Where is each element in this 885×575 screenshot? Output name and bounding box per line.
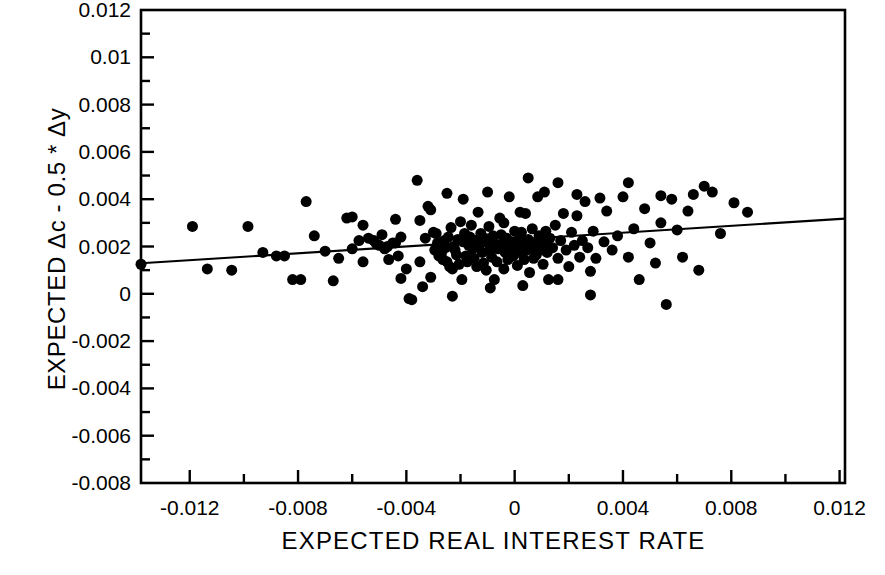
data-point — [524, 267, 535, 278]
data-point — [655, 217, 666, 228]
data-point — [393, 250, 404, 261]
data-point — [347, 243, 358, 254]
data-point — [582, 242, 593, 253]
data-point — [417, 281, 428, 292]
scatter-plot-figure: EXPECTED Δc - 0.5 * Δy EXPECTED REAL INT… — [0, 0, 885, 575]
data-point — [590, 253, 601, 264]
data-point — [295, 274, 306, 285]
data-point — [599, 236, 610, 247]
data-point — [566, 227, 577, 238]
data-point — [538, 259, 549, 270]
data-point — [412, 175, 423, 186]
data-point — [552, 253, 563, 264]
data-points — [136, 172, 754, 310]
data-point — [517, 280, 528, 291]
data-point — [601, 206, 612, 217]
data-point — [279, 250, 290, 261]
data-point — [202, 263, 213, 274]
data-point — [383, 254, 394, 265]
data-point — [466, 220, 477, 231]
data-point — [539, 187, 550, 198]
data-point — [544, 233, 555, 244]
data-point — [742, 207, 753, 218]
data-point — [682, 206, 693, 217]
data-point — [333, 253, 344, 264]
data-point — [446, 222, 457, 233]
data-point — [455, 216, 466, 227]
data-point — [607, 245, 618, 256]
data-point — [623, 252, 634, 263]
data-point — [728, 197, 739, 208]
data-point — [320, 246, 331, 257]
data-point — [628, 223, 639, 234]
data-point — [482, 187, 493, 198]
data-point — [588, 226, 599, 237]
data-point — [309, 230, 320, 241]
data-point — [655, 190, 666, 201]
data-point — [498, 263, 509, 274]
data-point — [395, 232, 406, 243]
data-point — [623, 177, 634, 188]
data-point — [634, 274, 645, 285]
data-point — [414, 215, 425, 226]
data-point — [441, 188, 452, 199]
data-point — [563, 261, 574, 272]
data-point — [558, 208, 569, 219]
data-point — [447, 291, 458, 302]
data-point — [395, 273, 406, 284]
data-point — [661, 299, 672, 310]
data-point — [443, 232, 454, 243]
data-point — [242, 221, 253, 232]
data-point — [707, 187, 718, 198]
data-point — [585, 289, 596, 300]
data-point — [458, 194, 469, 205]
data-point — [485, 282, 496, 293]
data-point — [645, 237, 656, 248]
data-point — [498, 217, 509, 228]
data-point — [328, 275, 339, 286]
data-point — [481, 265, 492, 276]
data-point — [688, 189, 699, 200]
data-point — [550, 220, 561, 231]
data-point — [594, 193, 605, 204]
data-point — [136, 259, 147, 270]
plot-canvas — [0, 0, 885, 575]
data-point — [390, 214, 401, 225]
data-point — [483, 221, 494, 232]
data-point — [639, 203, 650, 214]
data-point — [504, 191, 515, 202]
data-point — [414, 256, 425, 267]
data-point — [571, 210, 582, 221]
data-point — [358, 256, 369, 267]
data-point — [543, 274, 554, 285]
data-point — [347, 211, 358, 222]
data-point — [401, 263, 412, 274]
data-point — [523, 172, 534, 183]
data-point — [519, 254, 530, 265]
data-point — [650, 258, 661, 269]
data-point — [456, 274, 467, 285]
data-point — [552, 274, 563, 285]
data-point — [358, 220, 369, 231]
data-point — [406, 294, 417, 305]
data-point — [677, 252, 688, 263]
data-point — [301, 196, 312, 207]
data-point — [257, 247, 268, 258]
data-point — [715, 228, 726, 239]
data-point — [515, 207, 526, 218]
data-point — [617, 191, 628, 202]
data-point — [571, 189, 582, 200]
data-point — [425, 204, 436, 215]
data-point — [451, 249, 462, 260]
data-point — [552, 177, 563, 188]
data-point — [226, 265, 237, 276]
data-point — [376, 229, 387, 240]
data-point — [672, 224, 683, 235]
data-point — [666, 194, 677, 205]
data-point — [473, 207, 484, 218]
data-point — [425, 272, 436, 283]
data-point — [574, 252, 585, 263]
data-point — [555, 235, 566, 246]
data-point — [187, 221, 198, 232]
data-point — [585, 266, 596, 277]
